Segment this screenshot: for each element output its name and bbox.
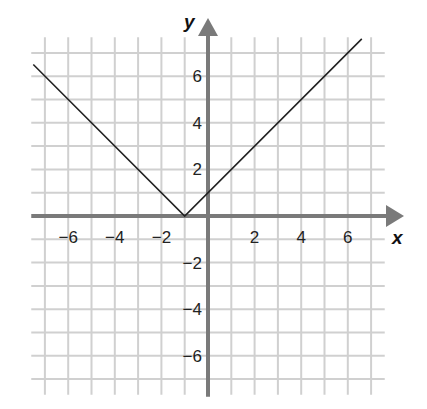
x-tick-label: −2 — [152, 228, 171, 247]
absolute-value-graph: −6−4−2246−6−4−2246 x y — [0, 0, 427, 409]
y-axis-arrow-icon — [198, 18, 218, 36]
x-axis-arrow-icon — [386, 205, 404, 227]
y-tick-label: 2 — [193, 160, 202, 179]
y-tick-label: −4 — [183, 300, 202, 319]
y-axis-label: y — [183, 11, 196, 32]
y-tick-label: 4 — [193, 114, 202, 133]
y-tick-label: 6 — [193, 67, 202, 86]
y-tick-label: −2 — [183, 254, 202, 273]
x-axis-label: x — [391, 227, 404, 248]
x-tick-label: 2 — [250, 228, 259, 247]
x-tick-label: 4 — [296, 228, 305, 247]
x-tick-label: −6 — [59, 228, 78, 247]
y-tick-label: −6 — [183, 347, 202, 366]
x-tick-label: −4 — [105, 228, 124, 247]
x-tick-label: 6 — [343, 228, 352, 247]
